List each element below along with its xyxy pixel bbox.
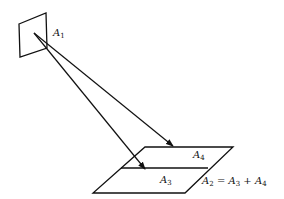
diagram-canvas bbox=[0, 0, 284, 199]
label-a3: A3 bbox=[160, 175, 172, 187]
arrow-to-a4 bbox=[34, 33, 173, 146]
source-patch-a1 bbox=[19, 13, 47, 57]
equation-a2: A2 = A3 + A4 bbox=[202, 176, 267, 188]
label-a1: A1 bbox=[53, 28, 65, 40]
arrow-to-a3 bbox=[34, 33, 145, 169]
label-a4: A4 bbox=[193, 150, 205, 162]
